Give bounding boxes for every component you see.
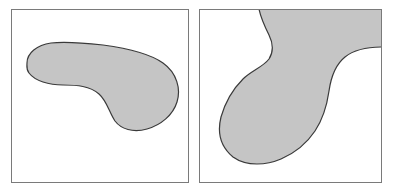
panel-right [199,9,382,183]
panel-right-canvas [199,9,382,183]
figure-root [0,0,397,191]
panel-left-canvas [11,9,189,183]
panel-left [11,9,189,183]
